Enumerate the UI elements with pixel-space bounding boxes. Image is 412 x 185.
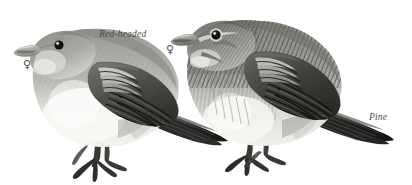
eye-pine xyxy=(210,29,222,41)
female-symbol-red-headed: ♀ xyxy=(23,59,31,70)
label-pine: Pine xyxy=(369,112,387,122)
female-symbol-pine: ♀ xyxy=(166,44,174,55)
plate-artwork xyxy=(0,0,412,185)
label-red-headed: Red-headed xyxy=(99,29,146,39)
bird-plate: Red-headed Pine ♀ ♀ xyxy=(0,0,412,185)
